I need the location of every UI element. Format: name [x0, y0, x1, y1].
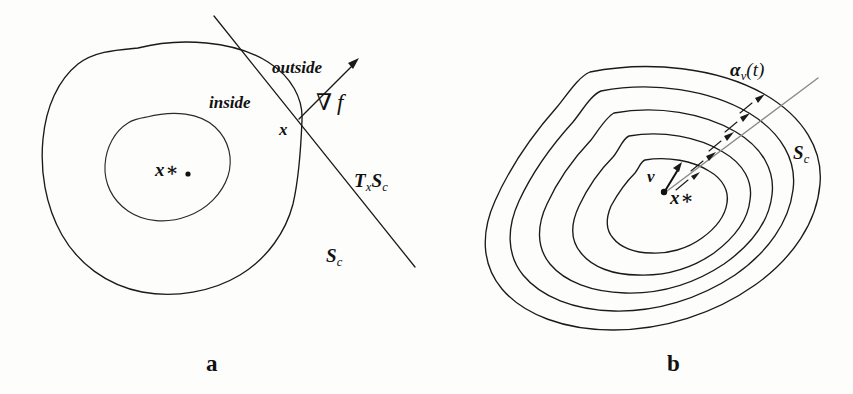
level-set-S: S — [793, 142, 804, 163]
panel-a-point-x-label: x — [279, 121, 288, 138]
panel-a-gradient-arrowhead — [348, 58, 359, 69]
figure-container: outside inside x ∇f x∗ TxSc Sc a αv(t) S… — [0, 0, 853, 394]
panel-a-inside-label: inside — [209, 94, 251, 111]
panel-a-gradient-label: ∇f — [316, 91, 343, 114]
level-set-S-subscript: c — [337, 255, 343, 269]
panel-b-contour-4 — [510, 87, 794, 311]
panel-a-tangent-space-label: TxSc — [354, 171, 388, 193]
panel-a-level-set-label: Sc — [326, 246, 342, 268]
panel-b-orientation-arrowhead-2 — [706, 152, 716, 161]
panel-b-contour-1 — [607, 159, 727, 254]
nabla-icon: ∇ — [316, 90, 332, 115]
panel-b-v-vector-arrowhead — [673, 162, 682, 172]
level-set-S: S — [326, 245, 337, 266]
panel-a-optimum-dot — [185, 171, 190, 176]
alpha-argument: (t) — [746, 59, 764, 80]
level-set-S-subscript: c — [804, 152, 810, 166]
gradient-function-label: f — [337, 90, 343, 115]
panel-b-orientation-arrowhead-1 — [691, 172, 700, 180]
panel-a-graphics — [42, 16, 415, 294]
tangent-space-T: T — [354, 170, 366, 191]
panel-b-level-set-label: Sc — [793, 143, 809, 165]
alpha-symbol: α — [730, 59, 741, 80]
figure-vector-layer — [0, 0, 853, 394]
panel-b-orientation-arrowhead-5 — [755, 94, 765, 103]
panel-b-alpha-curve-label: αv(t) — [730, 60, 764, 82]
panel-b-contour-2 — [573, 134, 751, 275]
panel-b-orientation-arrowhead-3 — [724, 132, 734, 141]
panel-a-caption: a — [206, 352, 218, 375]
panel-b-graphics — [485, 67, 820, 330]
panel-a-tangent-line — [214, 16, 415, 267]
panel-b-orientation-arrowhead-4 — [740, 113, 750, 122]
tangent-space-S: S — [371, 170, 382, 191]
panel-b-caption: b — [667, 352, 680, 375]
panel-b-alpha-curve — [663, 78, 818, 194]
panel-b-contour-5 — [485, 67, 820, 330]
panel-b-v-label: v — [647, 168, 655, 185]
panel-a-optimum-label: x∗ — [155, 160, 180, 179]
tangent-space-S-subscript: c — [382, 180, 388, 194]
panel-b-optimum-dot — [661, 189, 667, 195]
panel-a-outside-label: outside — [272, 59, 322, 76]
panel-b-optimum-label: x∗ — [670, 188, 695, 207]
